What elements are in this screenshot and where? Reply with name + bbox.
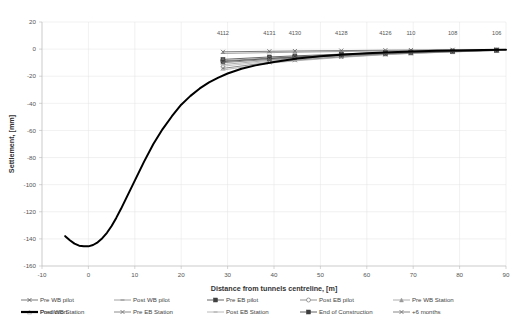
legend-item-pre-wb-station[interactable]: Pre WB Station (393, 296, 454, 303)
y-tick-label: -20 (27, 72, 37, 79)
legend-item-pre-eb-pilot[interactable]: Pre EB pilot (207, 296, 258, 303)
y-tick-label: -140 (24, 235, 37, 242)
x-tick-label: 20 (178, 271, 185, 278)
x-axis-title: Distance from tunnels centreline, [m] (211, 284, 338, 293)
series-point-label: 4128 (335, 30, 347, 36)
legend-label: Pre EB pilot (226, 296, 258, 303)
x-tick-label: 70 (410, 271, 417, 278)
legend-label: Post EB Station (226, 308, 269, 315)
y-tick-label: 20 (29, 18, 36, 25)
legend-label: Prediction (40, 308, 67, 315)
y-tick-label: -120 (24, 208, 37, 215)
series-point-label: 4112 (217, 30, 229, 36)
series-point-label: 110 (406, 30, 415, 36)
series-point-label: 108 (448, 30, 457, 36)
x-tick-label: 0 (87, 271, 91, 278)
legend-label: Pre WB pilot (40, 296, 74, 303)
y-tick-label: -160 (24, 262, 37, 269)
legend-item-end-of-construction[interactable]: End of Construction (300, 308, 373, 315)
x-tick-label: 60 (363, 271, 370, 278)
legend-item-post-wb-pilot[interactable]: Post WB pilot (114, 296, 170, 303)
legend-item--6-months[interactable]: +6 months (393, 308, 441, 315)
x-tick-label: 90 (503, 271, 510, 278)
legend-item-post-eb-station[interactable]: Post EB Station (207, 308, 269, 315)
x-tick-label: 10 (131, 271, 138, 278)
legend-label: Pre EB Station (133, 308, 173, 315)
data-point-marker (307, 298, 311, 302)
legend-label: Post WB pilot (133, 296, 170, 303)
data-point-marker (214, 298, 218, 302)
y-tick-label: -100 (24, 181, 37, 188)
y-tick-label: -40 (27, 100, 37, 107)
x-tick-label: 30 (224, 271, 231, 278)
x-tick-label: 80 (456, 271, 463, 278)
legend-item-post-eb-pilot[interactable]: Post EB pilot (300, 296, 354, 303)
y-tick-label: 0 (33, 45, 37, 52)
legend-item-pre-eb-station[interactable]: Pre EB Station (114, 308, 173, 315)
series-prediction (65, 50, 506, 247)
series-point-label: 4130 (289, 30, 301, 36)
x-tick-label: -10 (38, 271, 48, 278)
x-tick-label: 50 (317, 271, 324, 278)
series-point-label: 4126 (379, 30, 391, 36)
x-tick-labels: -100102030405060708090 (38, 271, 510, 278)
series-point-label: 106 (492, 30, 501, 36)
y-axis-title: Settlement, [mm] (7, 115, 16, 173)
series-point-label: 4131 (263, 30, 275, 36)
legend-item-pre-wb-pilot[interactable]: Pre WB pilot (21, 296, 74, 303)
data-point-marker (307, 310, 311, 314)
point-labels: 41124131413041284126110108106 (217, 30, 501, 36)
data-point-marker (267, 57, 271, 61)
settlement-chart-figure: 200-20-40-60-80-100-120-140-160 -1001020… (0, 0, 519, 332)
chart-svg: 200-20-40-60-80-100-120-140-160 -1001020… (0, 0, 519, 332)
y-tick-label: -60 (27, 127, 37, 134)
legend-label: Pre WB Station (412, 296, 454, 303)
legend-label: End of Construction (319, 308, 373, 315)
x-tick-label: 40 (271, 271, 278, 278)
legend-label: +6 months (412, 308, 441, 315)
y-tick-label: -80 (27, 154, 37, 161)
series-layer (65, 48, 506, 247)
y-tick-labels: 200-20-40-60-80-100-120-140-160 (24, 18, 37, 269)
chart-legend: Pre WB pilotPost WB pilotPre EB pilotPos… (21, 296, 454, 315)
legend-label: Post EB pilot (319, 296, 354, 303)
